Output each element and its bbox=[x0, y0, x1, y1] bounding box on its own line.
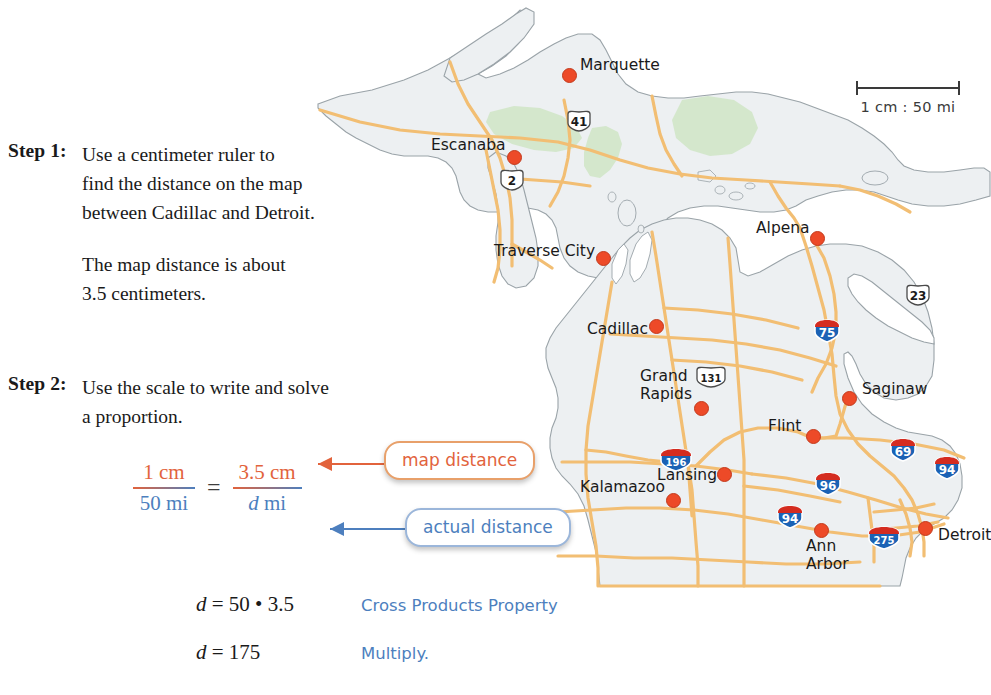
solution-row-2: d = 175 Multiply. bbox=[196, 640, 429, 665]
solution-row-1: d = 50 • 3.5 Cross Products Property bbox=[196, 592, 558, 617]
solution-equation-2: d = 175 bbox=[196, 640, 361, 665]
solution-reason-2: Multiply. bbox=[361, 644, 429, 663]
callout-actual-distance: actual distance bbox=[405, 508, 571, 547]
map-distance-arrow bbox=[318, 457, 384, 471]
solution-equation-1-rest: = 50 • 3.5 bbox=[212, 592, 294, 616]
solution-reason-1: Cross Products Property bbox=[361, 596, 558, 615]
callout-map-distance: map distance bbox=[384, 441, 535, 480]
actual-distance-arrow bbox=[330, 522, 405, 536]
solution-equation-1: d = 50 • 3.5 bbox=[196, 592, 361, 617]
callout-arrows bbox=[0, 0, 991, 695]
solution-equation-2-rest: = 175 bbox=[212, 640, 261, 664]
